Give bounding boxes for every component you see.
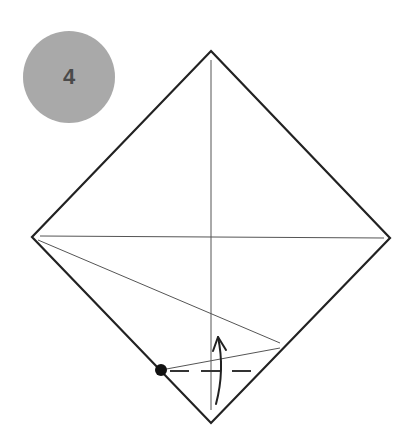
fold-diagram-canvas xyxy=(0,0,418,447)
diagonal-crease-upper xyxy=(38,240,280,343)
origami-step-diagram: 4 xyxy=(0,0,418,447)
horizontal-center-crease xyxy=(40,236,384,238)
reference-point-dot xyxy=(155,364,167,376)
